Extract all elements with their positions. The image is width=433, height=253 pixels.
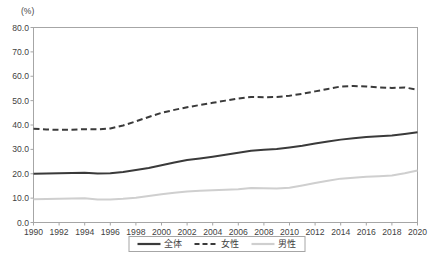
x-tick-label: 2008	[254, 227, 273, 237]
x-tick-label: 2014	[331, 227, 350, 237]
x-tick-label: 2004	[203, 227, 222, 237]
y-tick-label: 60.0	[12, 71, 29, 81]
chart-container: (%) 0.010.020.030.040.050.060.070.080.0 …	[0, 0, 433, 253]
chart-background	[0, 0, 433, 253]
y-axis-unit-label: (%)	[21, 6, 34, 16]
y-tick-label: 50.0	[12, 96, 29, 106]
y-tick-label: 40.0	[12, 120, 29, 130]
line-chart: (%) 0.010.020.030.040.050.060.070.080.0 …	[0, 0, 433, 253]
legend-label-0[interactable]: 全体	[164, 238, 182, 249]
legend-label-2[interactable]: 男性	[278, 238, 296, 249]
x-tick-label: 2002	[178, 227, 197, 237]
y-tick-label: 20.0	[12, 169, 29, 179]
legend-label-1[interactable]: 女性	[221, 238, 239, 249]
x-tick-label: 2012	[306, 227, 325, 237]
y-axis-tick-labels: 0.010.020.030.040.050.060.070.080.0	[12, 23, 29, 228]
x-tick-label: 2020	[408, 227, 427, 237]
y-tick-label: 70.0	[12, 47, 29, 57]
chart-legend: 全体女性男性	[129, 237, 305, 252]
x-tick-label: 1996	[101, 227, 120, 237]
x-tick-label: 2018	[382, 227, 401, 237]
x-tick-label: 1992	[50, 227, 69, 237]
x-tick-label: 2016	[357, 227, 376, 237]
y-tick-label: 80.0	[12, 23, 29, 33]
x-tick-label: 1998	[126, 227, 145, 237]
x-tick-label: 1990	[24, 227, 43, 237]
y-tick-label: 30.0	[12, 144, 29, 154]
y-tick-label: 10.0	[12, 193, 29, 203]
x-tick-label: 2000	[152, 227, 171, 237]
x-tick-label: 2010	[280, 227, 299, 237]
x-tick-label: 1994	[75, 227, 94, 237]
x-tick-label: 2006	[229, 227, 248, 237]
